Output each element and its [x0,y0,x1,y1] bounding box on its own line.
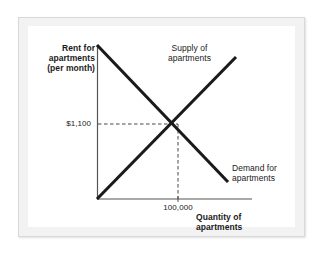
supply-demand-figure: Rent for apartments (per month) Supply o… [0,0,336,267]
demand-curve-label: Demand for apartments [232,163,277,183]
demand-curve-label-line1: Demand for [232,163,277,173]
supply-curve-label-line2: apartments [168,53,211,63]
supply-curve-label-line1: Supply of [168,43,211,53]
demand-curve-label-line2: apartments [232,173,277,183]
supply-curve-label: Supply of apartments [168,43,211,63]
price-tick-label: $1,100 [66,119,91,128]
y-axis-label: Rent for apartments (per month) [47,43,95,73]
y-axis-label-line1: Rent for [47,43,95,53]
plot-area [0,0,336,267]
x-axis-label: Quantity of apartments [196,212,242,232]
demand-curve [97,45,228,182]
y-axis-label-line2: apartments [47,53,95,63]
quantity-tick-label: 100,000 [155,203,201,212]
supply-curve [97,57,236,199]
y-axis-label-line3: (per month) [47,63,95,73]
x-axis-label-line1: Quantity of [196,212,242,222]
x-axis-label-line2: apartments [196,222,242,232]
